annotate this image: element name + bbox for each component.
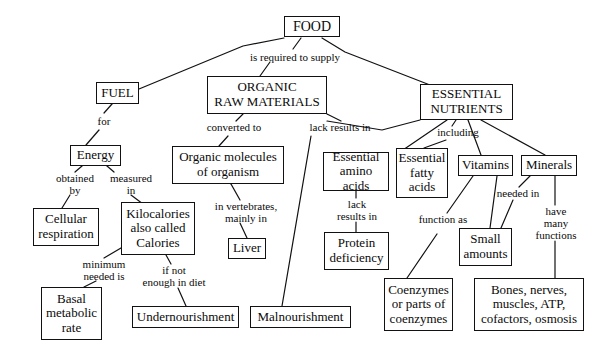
node-protein-def[interactable]: Protein deficiency xyxy=(324,232,389,270)
node-label: Undernourishment xyxy=(137,310,234,325)
link-label-obtained-by: obtained by xyxy=(47,172,103,196)
node-fuel[interactable]: FUEL xyxy=(96,82,139,104)
node-small-amounts[interactable]: Small amounts xyxy=(459,228,512,266)
minerals-to-needed-in xyxy=(519,176,530,187)
node-liver[interactable]: Liver xyxy=(228,238,266,259)
link-label-including: including xyxy=(430,126,486,138)
node-label: Essential fatty acids xyxy=(399,151,446,195)
node-essential-nutr[interactable]: ESSENTIAL NUTRIENTS xyxy=(420,84,513,120)
link-label-needed-in: needed in xyxy=(489,187,547,199)
kilocalories-to-minimum-needed xyxy=(104,248,121,258)
essential-nutrients-to-minerals xyxy=(481,120,545,155)
node-label: Kilocalories also called Calories xyxy=(126,207,190,251)
link-label-lack-results-in-2: lack results in xyxy=(328,198,386,222)
node-label: ORGANIC RAW MATERIALS xyxy=(214,80,319,109)
node-label: Minerals xyxy=(526,158,572,173)
organic-raw-materials-to-malnourishment xyxy=(327,114,341,121)
link-label-function-as: function as xyxy=(410,213,476,225)
node-kilocalories[interactable]: Kilocalories also called Calories xyxy=(121,202,195,255)
organic-raw-materials-to-organic-molecules-2 xyxy=(219,136,228,146)
function-as-to-coenzymes xyxy=(407,234,437,278)
in-vertebrates-to-liver xyxy=(240,223,247,238)
link-label-minimum-needed-is: minimum needed is xyxy=(68,258,140,282)
node-coenzymes[interactable]: Coenzymes or parts of coenzymes xyxy=(384,278,453,331)
node-label: Small amounts xyxy=(463,232,507,261)
node-vitamins[interactable]: Vitamins xyxy=(458,155,513,176)
food-to-organic-raw-materials-2 xyxy=(260,62,270,76)
node-label: FOOD xyxy=(293,19,331,35)
node-minerals[interactable]: Minerals xyxy=(521,155,577,176)
organic-raw-materials-to-organic-molecules xyxy=(236,114,243,121)
link-label-is-required-to-supply: is required to supply xyxy=(230,51,360,63)
node-malnourishment[interactable]: Malnourishment xyxy=(250,306,351,328)
node-label: ESSENTIAL NUTRIENTS xyxy=(430,87,502,116)
node-label: Cellular respiration xyxy=(38,212,94,241)
node-organic-raw[interactable]: ORGANIC RAW MATERIALS xyxy=(207,76,327,114)
node-cellular-resp[interactable]: Cellular respiration xyxy=(33,208,99,246)
node-label: Coenzymes or parts of coenzymes xyxy=(388,283,449,327)
link-label-measured-in: measured in xyxy=(103,172,159,196)
food-to-organic-raw-materials xyxy=(293,38,301,49)
link-label-lack-results-in-top: lack results in xyxy=(300,121,380,133)
node-food[interactable]: FOOD xyxy=(284,16,340,37)
node-label: Vitamins xyxy=(462,158,509,173)
if-not-enough-to-undernourish xyxy=(178,288,186,306)
node-label: Energy xyxy=(77,148,114,163)
vitamins-to-small-amounts xyxy=(490,176,497,228)
node-label: Bones, nerves, muscles, ATP, cofactors, … xyxy=(481,283,577,327)
fuel-to-energy xyxy=(104,104,112,113)
node-label: Malnourishment xyxy=(258,310,344,325)
node-label: Organic molecules of organism xyxy=(179,150,277,179)
node-label: Essential amino acids xyxy=(328,150,384,194)
link-label-have-many-functions: have many functions xyxy=(525,205,587,241)
node-ess-amino[interactable]: Essential amino acids xyxy=(323,152,389,191)
node-label: FUEL xyxy=(101,86,134,101)
node-ess-fatty[interactable]: Essential fatty acids xyxy=(396,148,448,198)
kilocalories-to-if-not-enough xyxy=(166,255,171,264)
node-label: Liver xyxy=(233,241,261,256)
node-bones[interactable]: Bones, nerves, muscles, ATP, cofactors, … xyxy=(474,278,584,331)
concept-map-canvas: FOODFUELORGANIC RAW MATERIALSESSENTIAL N… xyxy=(0,0,611,347)
needed-in-to-small-amounts xyxy=(501,200,513,228)
node-energy[interactable]: Energy xyxy=(70,145,121,166)
including-to-ess-fatty xyxy=(424,140,446,148)
node-label: Protein deficiency xyxy=(329,236,383,265)
link-label-if-not-enough: if not enough in diet xyxy=(131,264,217,288)
link-label-converted-to: converted to xyxy=(197,121,271,133)
fuel-to-energy-2 xyxy=(86,130,99,145)
vitamins-to-function-as xyxy=(447,176,473,213)
node-basal-metab[interactable]: Basal metabolic rate xyxy=(41,287,102,340)
organic-molecules-to-in-vertebrates xyxy=(231,184,240,200)
obtained-by-to-cellular-resp xyxy=(62,195,70,208)
link-label-in-vertebrates: in vertebrates, mainly in xyxy=(203,200,289,224)
node-undernourish[interactable]: Undernourishment xyxy=(132,306,239,328)
node-organic-mol[interactable]: Organic molecules of organism xyxy=(172,146,284,184)
link-label-for: for xyxy=(91,115,117,127)
node-label: Basal metabolic rate xyxy=(46,292,97,336)
